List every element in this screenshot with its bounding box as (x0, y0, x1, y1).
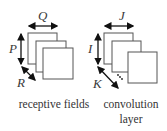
convolution-layer-stack (104, 33, 157, 83)
height-label-i: I (88, 41, 92, 57)
caption-line-1: convolution (97, 97, 165, 112)
caption-receptive-fields: receptive fields (14, 97, 94, 112)
width-label-q: Q (38, 8, 47, 24)
ellipsis-dots (117, 74, 123, 80)
caption-convolution-layer: convolution layer (97, 97, 165, 127)
caption-line-2: layer (97, 112, 165, 127)
height-label-p: P (9, 41, 17, 57)
receptive-fields-stack (28, 33, 73, 79)
width-label-j: J (119, 8, 125, 24)
depth-label-k: K (93, 76, 102, 92)
depth-label-r: R (17, 75, 25, 91)
